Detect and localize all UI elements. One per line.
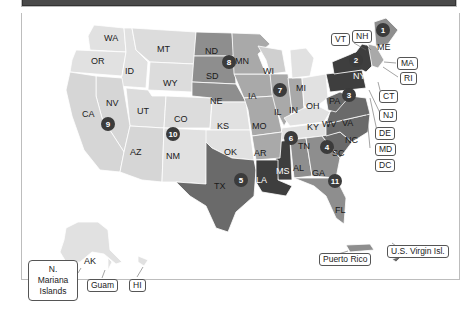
region-badge-3[interactable]: 3 — [342, 88, 356, 102]
label-ca: CA — [82, 109, 95, 119]
label-tn: TN — [298, 141, 310, 151]
label-id: ID — [125, 66, 135, 76]
svg-text:8: 8 — [227, 58, 232, 67]
svg-text:5: 5 — [239, 176, 244, 185]
callout-nh[interactable]: NH — [352, 30, 372, 43]
label-mo: MO — [252, 121, 267, 131]
callout-n-mariana-islands[interactable]: N. Mariana Islands — [28, 260, 78, 301]
label-ut: UT — [137, 106, 149, 116]
region-badge-2[interactable]: 2 — [349, 53, 363, 67]
label-mt: MT — [157, 44, 170, 54]
svg-text:7: 7 — [278, 86, 283, 95]
label-me: ME — [377, 42, 391, 52]
region-badge-9[interactable]: 9 — [101, 117, 115, 131]
label-mi: MI — [296, 83, 306, 93]
region-badge-1[interactable]: 1 — [376, 23, 390, 37]
region-badge-8[interactable]: 8 — [222, 55, 236, 69]
region-badge-5[interactable]: 5 — [234, 173, 248, 187]
label-il: IL — [274, 107, 282, 117]
label-ak: AK — [84, 256, 96, 266]
callout-guam[interactable]: Guam — [87, 279, 118, 292]
label-ne: NE — [210, 96, 223, 106]
label-in: IN — [289, 105, 298, 115]
territory-hi[interactable] — [138, 256, 148, 266]
label-nd: ND — [205, 46, 218, 56]
label-wa: WA — [104, 33, 118, 43]
region-badge-10[interactable]: 10 — [166, 127, 180, 141]
territory-puerto-rico[interactable] — [346, 244, 374, 252]
label-ny: NY — [353, 71, 366, 81]
label-sc: SC — [332, 148, 345, 158]
label-nm: NM — [166, 151, 180, 161]
label-sd: SD — [206, 71, 219, 81]
svg-text:1: 1 — [381, 26, 386, 35]
label-ms: MS — [276, 166, 290, 176]
region-badge-4[interactable]: 4 — [320, 140, 334, 154]
label-pa: PA — [329, 96, 340, 106]
label-az: AZ — [130, 147, 142, 157]
label-la: LA — [256, 175, 267, 185]
label-fl: FL — [335, 205, 346, 215]
callout-ct[interactable]: CT — [379, 90, 398, 103]
label-va: VA — [342, 118, 353, 128]
label-wi: WI — [263, 66, 274, 76]
label-nv: NV — [106, 98, 119, 108]
callout-ri[interactable]: RI — [400, 72, 417, 85]
label-nc: NC — [345, 135, 358, 145]
region-badge-6[interactable]: 6 — [284, 131, 298, 145]
svg-text:10: 10 — [169, 130, 178, 139]
label-ks: KS — [217, 121, 229, 131]
state-co[interactable] — [164, 96, 212, 128]
callout-md[interactable]: MD — [375, 143, 396, 156]
callout-vt[interactable]: VT — [331, 33, 350, 46]
svg-text:4: 4 — [325, 143, 330, 152]
state-ks[interactable] — [210, 102, 250, 130]
label-wv: WV — [322, 119, 337, 129]
svg-text:11: 11 — [331, 177, 340, 186]
callout-nj[interactable]: NJ — [379, 109, 397, 122]
region-badge-11[interactable]: 11 — [328, 174, 342, 188]
svg-text:3: 3 — [347, 91, 352, 100]
label-wy: WY — [163, 78, 178, 88]
label-ia: IA — [248, 91, 257, 101]
state-mi[interactable] — [290, 48, 314, 78]
label-mn: MN — [235, 56, 249, 66]
label-ky: KY — [307, 122, 319, 132]
callout-us-virgin-islands[interactable]: U.S. Virgin Isl. — [387, 245, 449, 258]
svg-text:6: 6 — [289, 134, 294, 143]
label-oh: OH — [306, 101, 320, 111]
svg-text:9: 9 — [106, 120, 111, 129]
callout-puerto-rico[interactable]: Puerto Rico — [319, 253, 371, 266]
label-or: OR — [91, 56, 105, 66]
callout-hi[interactable]: HI — [129, 279, 146, 292]
callout-ma[interactable]: MA — [397, 57, 418, 70]
callout-de[interactable]: DE — [375, 127, 395, 140]
label-tx: TX — [214, 181, 226, 191]
label-ar: AR — [254, 148, 267, 158]
label-al: AL — [293, 163, 304, 173]
label-co: CO — [174, 114, 188, 124]
region-badge-7[interactable]: 7 — [273, 83, 287, 97]
svg-text:2: 2 — [354, 56, 359, 65]
label-ok: OK — [224, 147, 237, 157]
callout-dc[interactable]: DC — [375, 159, 395, 172]
label-ga: GA — [312, 168, 325, 178]
